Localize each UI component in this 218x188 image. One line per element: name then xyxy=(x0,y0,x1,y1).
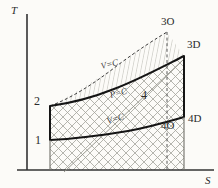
ts-diagram-canvas xyxy=(0,0,218,188)
ts-diagram-figure: T S 2 1 4 3O 3D 4O 4D V=C P=C V=C xyxy=(0,0,218,188)
